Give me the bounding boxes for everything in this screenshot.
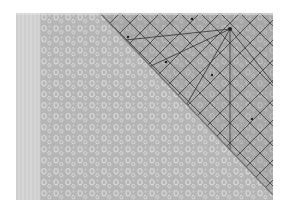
- fabric-ruler-illustration: [16, 13, 273, 200]
- selvage-strip: [16, 13, 40, 200]
- fabric-photo: Grayscale photograph of a small-scale pa…: [16, 13, 273, 200]
